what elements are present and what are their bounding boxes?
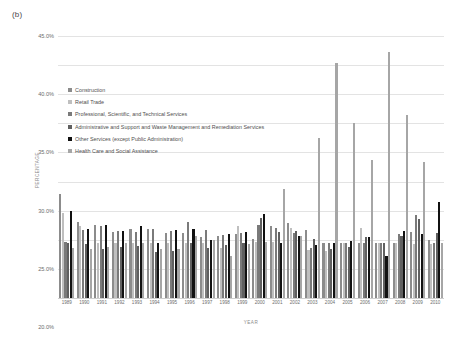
x-axis-tick-label: 1989: [58, 300, 76, 305]
bar: [423, 162, 425, 298]
x-axis-tick-label: 2000: [251, 300, 269, 305]
x-axis-tick-label: 2010: [426, 300, 444, 305]
y-axis-tick-label: 35.0%: [38, 149, 54, 155]
x-axis-tick-label: 1998: [216, 300, 234, 305]
gridline: 0.0%: [58, 298, 444, 299]
x-axis-tick-label: 2003: [304, 300, 322, 305]
bar: [195, 236, 197, 298]
x-axis-tick-label: 1996: [181, 300, 199, 305]
legend-item[interactable]: Administrative and Support and Waste Man…: [68, 121, 264, 133]
x-axis-tick-label: 2006: [356, 300, 374, 305]
panel-label: (b): [12, 10, 22, 19]
y-axis-tick-label: 40.0%: [38, 91, 54, 97]
bar: [441, 243, 443, 298]
legend-swatch-icon: [68, 112, 72, 116]
year-group: [251, 36, 269, 298]
year-group: [339, 36, 357, 298]
legend-item[interactable]: Retail Trade: [68, 96, 264, 108]
legend-item-label: Health Care and Social Assistance: [75, 148, 158, 154]
year-group: [304, 36, 322, 298]
year-group: [356, 36, 374, 298]
x-axis-tick-label: 2007: [374, 300, 392, 305]
legend-swatch-icon: [68, 137, 72, 141]
chart-legend: ConstructionRetail TradeProfessional, Sc…: [68, 84, 264, 157]
year-group: [128, 36, 146, 298]
year-group: [76, 36, 94, 298]
year-group: [146, 36, 164, 298]
x-axis-tick-label: 1991: [93, 300, 111, 305]
legend-item-label: Retail Trade: [75, 99, 104, 105]
y-axis-title: PERCENTAGE: [35, 152, 40, 188]
bar: [160, 249, 162, 298]
bar: [265, 242, 267, 298]
year-group: [321, 36, 339, 298]
legend-item[interactable]: Other Services (except Public Administra…: [68, 133, 264, 145]
bar: [177, 249, 179, 298]
x-axis-tick-label: 2001: [269, 300, 287, 305]
year-group: [198, 36, 216, 298]
year-group: [58, 36, 76, 298]
bar: [335, 63, 337, 298]
legend-swatch-icon: [68, 100, 72, 104]
x-axis-tick-label: 1995: [163, 300, 181, 305]
bar: [283, 189, 285, 298]
year-group: [93, 36, 111, 298]
x-axis-tick-label: 2004: [321, 300, 339, 305]
x-axis-tick-label: 2008: [391, 300, 409, 305]
bar: [213, 240, 215, 298]
chart-root: (b) PERCENTAGE 45.0%40.0%35.0%30.0%25.0%…: [0, 0, 452, 340]
legend-swatch-icon: [68, 88, 72, 92]
legend-swatch-icon: [68, 125, 72, 129]
bar: [353, 123, 355, 298]
year-group: [409, 36, 427, 298]
bar: [230, 256, 232, 299]
bar: [125, 243, 127, 298]
legend-item-label: Construction: [75, 87, 105, 93]
x-axis-tick-label: 1994: [146, 300, 164, 305]
bar: [318, 138, 320, 298]
year-group: [426, 36, 444, 298]
bar: [388, 52, 390, 298]
year-group: [233, 36, 251, 298]
legend-item[interactable]: Construction: [68, 84, 264, 96]
year-group: [286, 36, 304, 298]
year-group: [181, 36, 199, 298]
year-group: [391, 36, 409, 298]
legend-item-label: Administrative and Support and Waste Man…: [75, 124, 264, 130]
x-axis-tick-label: 1999: [233, 300, 251, 305]
bar: [142, 243, 144, 298]
bar: [406, 115, 408, 298]
year-group: [216, 36, 234, 298]
y-axis-tick-label: 30.0%: [38, 208, 54, 214]
legend-item[interactable]: Professional, Scientific, and Technical …: [68, 108, 264, 120]
year-group: [374, 36, 392, 298]
y-axis-tick-label: 20.0%: [38, 324, 54, 330]
bar: [300, 236, 302, 298]
x-axis-tick-label: 2002: [286, 300, 304, 305]
legend-swatch-icon: [68, 149, 72, 153]
x-axis-title: YEAR: [58, 320, 444, 325]
year-group: [111, 36, 129, 298]
y-axis-tick-label: 45.0%: [38, 33, 54, 39]
x-axis-tick-label: 2005: [339, 300, 357, 305]
bar: [72, 248, 74, 298]
legend-item[interactable]: Health Care and Social Assistance: [68, 145, 264, 157]
x-axis-tick-label: 2009: [409, 300, 427, 305]
x-axis-tick-label: 1990: [76, 300, 94, 305]
y-axis-tick-label: 25.0%: [38, 266, 54, 272]
x-axis-tick-label: 1993: [128, 300, 146, 305]
bar: [90, 249, 92, 298]
year-group: [269, 36, 287, 298]
year-group: [163, 36, 181, 298]
legend-item-label: Professional, Scientific, and Technical …: [75, 111, 187, 117]
x-axis-tick-label: 1997: [198, 300, 216, 305]
bar: [248, 244, 250, 298]
x-axis-ticks: 1989199019911992199319941995199619971998…: [58, 300, 444, 305]
x-axis-tick-label: 1992: [111, 300, 129, 305]
bar: [371, 160, 373, 298]
plot-area: 45.0%40.0%35.0%30.0%25.0%20.0%15.0%10.0%…: [58, 36, 444, 298]
bars-layer: [58, 36, 444, 298]
bar: [107, 247, 109, 298]
legend-item-label: Other Services (except Public Administra…: [75, 136, 183, 142]
